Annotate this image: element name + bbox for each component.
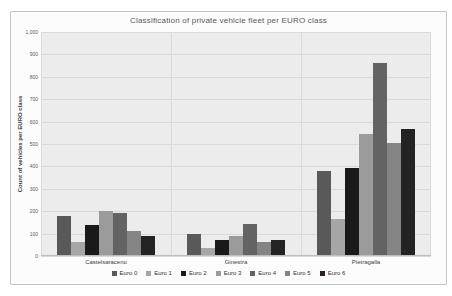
y-tick-label: 100 bbox=[11, 231, 38, 237]
bar bbox=[345, 168, 359, 256]
gridline bbox=[41, 256, 431, 257]
bar bbox=[85, 225, 99, 256]
y-tick-label: 1,000 bbox=[11, 29, 38, 35]
x-axis-line bbox=[41, 255, 431, 256]
y-tick-label: 700 bbox=[11, 96, 38, 102]
legend-marker-icon bbox=[181, 271, 186, 276]
bar bbox=[387, 143, 401, 256]
bar-group bbox=[41, 32, 171, 256]
legend-marker-icon bbox=[146, 271, 151, 276]
bar bbox=[373, 63, 387, 256]
legend-item: Euro 0 bbox=[112, 270, 138, 276]
plot-area bbox=[41, 32, 431, 256]
y-tick-label: 300 bbox=[11, 186, 38, 192]
bar bbox=[127, 231, 141, 256]
bar bbox=[317, 171, 331, 256]
legend-marker-icon bbox=[320, 271, 325, 276]
y-tick-label: 500 bbox=[11, 141, 38, 147]
bar bbox=[141, 236, 155, 256]
legend-item: Euro 1 bbox=[146, 270, 172, 276]
legend-label: Euro 4 bbox=[258, 270, 276, 276]
bar bbox=[359, 134, 373, 256]
bar bbox=[215, 240, 229, 256]
legend-label: Euro 6 bbox=[328, 270, 346, 276]
legend-marker-icon bbox=[250, 271, 255, 276]
legend-item: Euro 5 bbox=[285, 270, 311, 276]
x-category-label: Ginestra bbox=[171, 259, 301, 265]
x-category-label: Pietragalla bbox=[301, 259, 431, 265]
bar bbox=[187, 234, 201, 256]
y-tick-label: 600 bbox=[11, 119, 38, 125]
bar bbox=[257, 242, 271, 256]
legend-item: Euro 3 bbox=[216, 270, 242, 276]
legend-label: Euro 1 bbox=[154, 270, 172, 276]
bar bbox=[99, 211, 113, 256]
x-category-label: Castelsaraceno bbox=[41, 259, 171, 265]
legend-item: Euro 6 bbox=[320, 270, 346, 276]
legend-label: Euro 5 bbox=[293, 270, 311, 276]
y-tick-label: 400 bbox=[11, 163, 38, 169]
bar bbox=[229, 236, 243, 256]
legend: Euro 0Euro 1Euro 2Euro 3Euro 4Euro 5Euro… bbox=[11, 270, 446, 276]
legend-item: Euro 2 bbox=[181, 270, 207, 276]
bar bbox=[271, 240, 285, 256]
y-tick-label: 200 bbox=[11, 208, 38, 214]
bar-group bbox=[301, 32, 431, 256]
chart-title: Classification of private vehicle fleet … bbox=[11, 16, 446, 25]
legend-item: Euro 4 bbox=[250, 270, 276, 276]
legend-label: Euro 0 bbox=[120, 270, 138, 276]
bar bbox=[331, 219, 345, 256]
legend-label: Euro 3 bbox=[224, 270, 242, 276]
bar-group bbox=[171, 32, 301, 256]
y-tick-label: 0 bbox=[11, 253, 38, 259]
legend-label: Euro 2 bbox=[189, 270, 207, 276]
y-tick-label: 900 bbox=[11, 51, 38, 57]
bar bbox=[113, 213, 127, 256]
legend-marker-icon bbox=[285, 271, 290, 276]
bar bbox=[71, 242, 85, 256]
bar bbox=[243, 224, 257, 256]
chart-frame: Classification of private vehicle fleet … bbox=[10, 11, 447, 285]
y-tick-label: 800 bbox=[11, 74, 38, 80]
legend-marker-icon bbox=[216, 271, 221, 276]
bar bbox=[57, 216, 71, 256]
bar bbox=[401, 129, 415, 256]
legend-marker-icon bbox=[112, 271, 117, 276]
